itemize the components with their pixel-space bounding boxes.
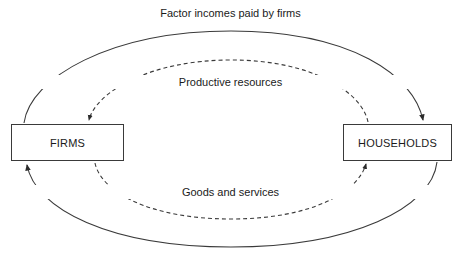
flow-label-productive-resources: Productive resources [0,75,461,89]
flow-arrow-consumer-expenditure [27,162,437,247]
flow-arrow-productive-resources [89,60,368,122]
flow-label-factor-incomes: Factor incomes paid by firms [0,6,461,20]
circular-flow-diagram: Factor incomes paid by firms Productive … [0,0,461,265]
node-box-households: HOUSEHOLDS [343,124,452,161]
node-box-firms: FIRMS [11,124,124,161]
flow-label-goods-and-services: Goods and services [0,185,461,199]
